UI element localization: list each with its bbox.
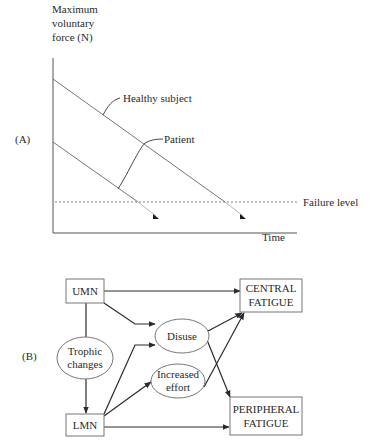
patient-line xyxy=(53,142,138,202)
node-trophic-label-2: changes xyxy=(67,358,102,370)
node-central-label-2: FATIGUE xyxy=(248,296,293,308)
node-disuse-label: Disuse xyxy=(167,330,197,342)
node-effort-label-1: Increased xyxy=(157,368,200,380)
patient-extrapolation xyxy=(138,202,156,216)
failure-level-label: Failure level xyxy=(303,196,358,208)
panel-b-label: (B) xyxy=(22,350,37,363)
x-axis-label: Time xyxy=(262,231,285,243)
node-umn-label: UMN xyxy=(72,285,98,297)
y-axis-label-line3: force (N) xyxy=(52,31,93,44)
node-trophic-label-1: Trophic xyxy=(68,345,103,357)
healthy-leader-icon xyxy=(103,98,120,115)
node-peripheral-label-1: PERIPHERAL xyxy=(233,403,300,415)
y-axis-label-line1: Maximum xyxy=(52,3,98,15)
panel-b-diagram: (B) UMN LMN Trophic changes Disuse xyxy=(22,279,302,436)
edge-disuse-peripheral xyxy=(205,335,230,397)
edge-effort-central xyxy=(204,313,244,387)
panel-a-label: (A) xyxy=(15,133,31,146)
edge-umn-disuse xyxy=(104,303,155,324)
node-peripheral-label-2: FATIGUE xyxy=(243,417,288,429)
panel-a-chart: Maximum voluntary force (N) (A) Failure … xyxy=(15,3,358,243)
healthy-extrapolation xyxy=(225,202,243,216)
figure: Maximum voluntary force (N) (A) Failure … xyxy=(0,0,371,448)
node-effort-label-2: effort xyxy=(166,381,190,393)
patient-failure-arrow-icon xyxy=(153,214,159,219)
healthy-subject-label: Healthy subject xyxy=(123,92,192,104)
node-lmn-label: LMN xyxy=(73,419,98,431)
edge-disuse-central xyxy=(208,313,242,331)
patient-label: Patient xyxy=(164,133,195,145)
node-central-label-1: CENTRAL xyxy=(246,282,297,294)
healthy-failure-arrow-icon xyxy=(240,214,246,219)
patient-leader-icon xyxy=(118,139,163,189)
y-axis-label-line2: voluntary xyxy=(52,17,95,29)
